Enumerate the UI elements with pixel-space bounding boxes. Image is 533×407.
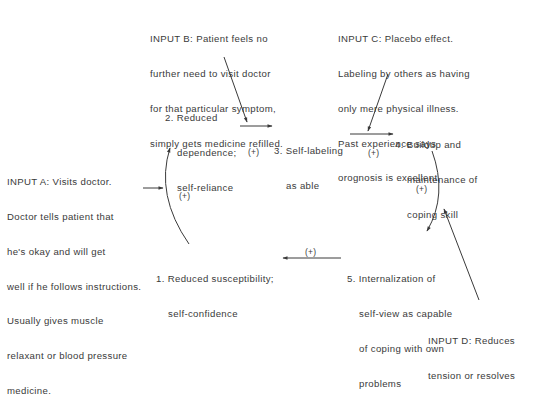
node-4-line: maintenance of: [395, 174, 478, 186]
node-2-reduced-dependence: 2. Reduced dependence; self-reliance: [165, 89, 236, 205]
input-a-line: INPUT A: Visits doctor.: [7, 176, 141, 188]
input-d-line: INPUT D: Reduces: [428, 335, 529, 347]
input-d-text: INPUT D: Reduces tension or resolves con…: [428, 312, 529, 407]
input-a-text: INPUT A: Visits doctor. Doctor tells pat…: [7, 153, 141, 407]
node-3-self-labeling: 3. Self-labeling as able: [274, 122, 343, 203]
node-2-line: dependence;: [165, 147, 236, 159]
sign-1-to-2: (+): [179, 191, 190, 201]
node-2-line: 2. Reduced: [165, 112, 236, 124]
input-c-line: Labeling by others as having: [338, 68, 470, 80]
input-a-line: Usually gives muscle: [7, 315, 141, 327]
node-1-reduced-susceptibility: 1. Reduced susceptibility; self-confiden…: [156, 250, 274, 331]
node-2-line: self-reliance: [165, 182, 236, 194]
node-3-line: as able: [274, 180, 343, 192]
input-a-line: medicine.: [7, 385, 141, 397]
node-4-buildup-coping-skill: 4. Buildup and maintenance of coping ski…: [395, 116, 478, 232]
node-4-line: coping skill: [395, 209, 478, 221]
input-d-line: tension or resolves: [428, 370, 529, 382]
input-a-line: well if he follows instructions.: [7, 281, 141, 293]
sign-2-to-3: (+): [248, 147, 259, 157]
input-b-line: further need to visit doctor: [150, 68, 283, 80]
sign-4-to-5: (+): [416, 184, 427, 194]
node-1-line: 1. Reduced susceptibility;: [156, 273, 274, 285]
node-4-line: 4. Buildup and: [395, 139, 478, 151]
input-a-line: he's okay and will get: [7, 246, 141, 258]
input-c-line: INPUT C: Placebo effect.: [338, 33, 470, 45]
node-3-line: 3. Self-labeling: [274, 145, 343, 157]
input-c-line: only mere physical illness.: [338, 103, 470, 115]
input-a-line: relaxant or blood pressure: [7, 350, 141, 362]
input-a-line: Doctor tells patient that: [7, 211, 141, 223]
node-1-line: self-confidence: [156, 308, 274, 320]
sign-5-to-1: (+): [305, 247, 316, 257]
input-b-line: INPUT B: Patient feels no: [150, 33, 283, 45]
node-5-line: 5. Internalization of: [347, 273, 452, 285]
sign-3-to-4: (+): [368, 148, 379, 158]
